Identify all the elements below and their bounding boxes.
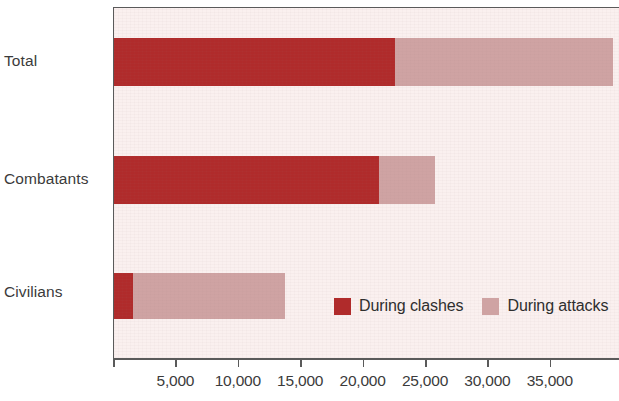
- bar-segment-combatants-during-attacks: [379, 156, 435, 204]
- bar-segment-total-during-clashes: [114, 38, 395, 86]
- bar-segment-total-during-attacks: [395, 38, 613, 86]
- bar-row-total: [114, 38, 613, 86]
- category-label-combatants: Combatants: [4, 170, 108, 188]
- legend-label-during-attacks: During attacks: [507, 297, 608, 315]
- x-axis-tick-15000: [300, 358, 302, 367]
- bar-row-civilians: [114, 273, 285, 319]
- x-axis-tick-25000: [425, 358, 427, 367]
- legend-label-during-clashes: During clashes: [359, 297, 463, 315]
- category-label-total: Total: [4, 52, 108, 70]
- legend-swatch-icon-during-attacks: [482, 298, 499, 315]
- x-axis-tick-10000: [238, 358, 240, 367]
- x-axis-tick-label-5000: 5,000: [156, 372, 194, 390]
- x-axis-tick-label-25000: 25,000: [402, 372, 448, 390]
- bar-row-combatants: [114, 156, 435, 204]
- bar-segment-civilians-during-attacks: [133, 273, 285, 319]
- x-axis-tick-label-35000: 35,000: [527, 372, 573, 390]
- legend-entry-during-clashes: During clashes: [334, 297, 463, 315]
- bar-segment-combatants-during-clashes: [114, 156, 379, 204]
- chart-legend: During clashes During attacks: [334, 297, 608, 315]
- bar-segment-civilians-during-clashes: [114, 273, 133, 319]
- x-axis-tick-20000: [363, 358, 365, 367]
- x-axis-line: [113, 358, 619, 360]
- x-axis-tick-label-15000: 15,000: [277, 372, 323, 390]
- category-label-civilians: Civilians: [4, 283, 108, 301]
- legend-swatch-icon-during-clashes: [334, 298, 351, 315]
- x-axis-tick-35000: [550, 358, 552, 367]
- legend-entry-during-attacks: During attacks: [482, 297, 608, 315]
- x-axis-tick-origin: [113, 358, 115, 367]
- x-axis-tick-label-30000: 30,000: [464, 372, 510, 390]
- stacked-bar-chart: Total Combatants Civilians During clashe…: [0, 0, 619, 401]
- x-axis-tick-label-10000: 10,000: [215, 372, 261, 390]
- x-axis-tick-label-20000: 20,000: [339, 372, 385, 390]
- x-axis-tick-5000: [175, 358, 177, 367]
- x-axis-tick-30000: [487, 358, 489, 367]
